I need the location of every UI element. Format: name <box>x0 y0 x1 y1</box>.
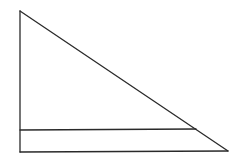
diagram-canvas <box>0 0 245 162</box>
parallel-line-segment <box>20 129 196 130</box>
triangle-base <box>20 151 228 152</box>
triangle-diagram <box>0 0 245 162</box>
